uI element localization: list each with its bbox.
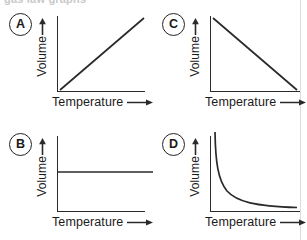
right-arrow-icon — [280, 218, 306, 227]
panel-label-b: B — [9, 133, 32, 156]
x-axis-label-text: Temperature — [52, 95, 123, 109]
graph-panel-a: A Volume Temperature — [0, 0, 153, 120]
y-axis-label-b: Volume — [30, 138, 54, 214]
panel-label-d: D — [162, 133, 185, 156]
y-axis-label-d: Volume — [183, 138, 207, 214]
graph-panel-c: C Volume Temperature — [153, 0, 307, 120]
plot-area-b — [57, 136, 145, 212]
curve-b — [58, 136, 146, 212]
x-axis-label-text: Temperature — [205, 95, 276, 109]
x-axis-label-text: Temperature — [205, 215, 276, 229]
graph-panel-b: B Volume Temperature — [0, 120, 153, 240]
curve-c — [211, 16, 301, 92]
y-axis-label-a: Volume — [30, 18, 54, 94]
x-axis-label-a: Temperature — [52, 95, 153, 109]
up-arrow-icon — [36, 18, 49, 35]
x-axis-label-d: Temperature — [205, 215, 306, 229]
plot-area-c — [210, 16, 300, 92]
x-axis-label-text: Temperature — [52, 215, 123, 229]
right-arrow-icon — [280, 98, 306, 107]
y-axis-label-text: Volume — [188, 156, 202, 197]
curve-a — [58, 16, 146, 92]
right-arrow-icon — [127, 218, 153, 227]
y-axis-label-text: Volume — [35, 36, 49, 77]
y-axis-label-c: Volume — [183, 18, 207, 94]
up-arrow-icon — [189, 138, 202, 155]
y-axis-label-text: Volume — [188, 36, 202, 77]
right-arrow-icon — [127, 98, 153, 107]
panel-label-a: A — [9, 13, 32, 36]
y-axis-label-text: Volume — [35, 156, 49, 197]
plot-area-d — [210, 136, 300, 212]
x-axis-label-c: Temperature — [205, 95, 306, 109]
up-arrow-icon — [189, 18, 202, 35]
graph-panel-d: D Volume Temperature — [153, 120, 307, 240]
curve-d — [211, 136, 301, 212]
graph-grid: A Volume Temperature C — [0, 0, 307, 240]
up-arrow-icon — [36, 138, 49, 155]
panel-label-c: C — [162, 13, 185, 36]
plot-area-a — [57, 16, 145, 92]
x-axis-label-b: Temperature — [52, 215, 153, 229]
